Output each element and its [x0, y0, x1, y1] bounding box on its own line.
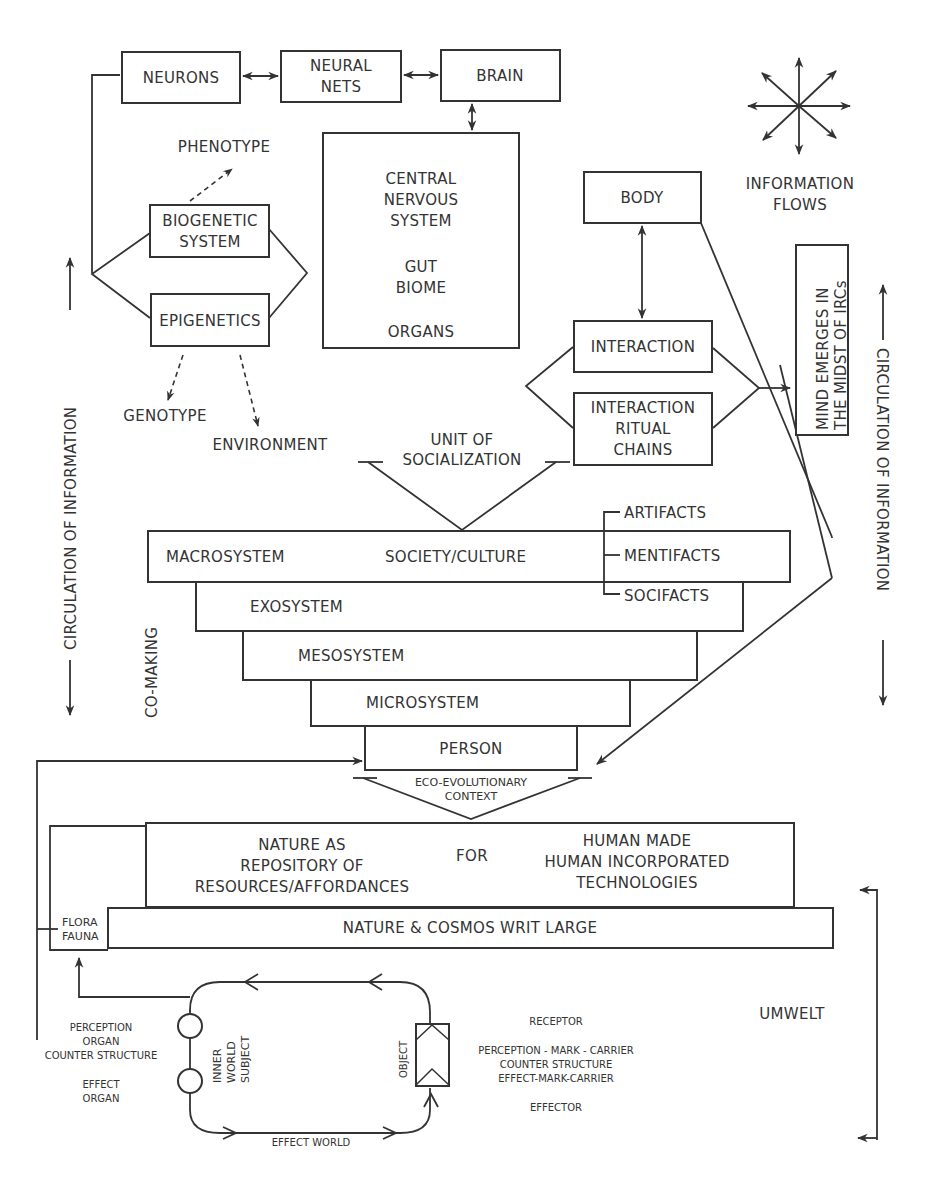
unit-of-socialization-label-1: UNIT OF	[430, 431, 493, 449]
effector-label: EFFECTOR	[530, 1102, 582, 1113]
biogenetic-label-2: SYSTEM	[179, 233, 241, 251]
artifacts-label: ARTIFACTS	[624, 504, 706, 522]
fauna-label: FAUNA	[62, 930, 99, 943]
world-label: WORLD	[225, 1041, 238, 1083]
genetics-left-bracket	[92, 233, 150, 318]
mesosystem-label: MESOSYSTEM	[298, 647, 405, 665]
cns-line-gut: GUT	[405, 258, 438, 276]
effect-world-label: EFFECT WORLD	[272, 1137, 351, 1148]
neurons-box: NEURONS	[122, 52, 240, 103]
interaction-label: INTERACTION	[591, 338, 695, 356]
body-label: BODY	[621, 189, 664, 207]
perception-organ-label-2: ORGAN	[83, 1036, 120, 1047]
phenotype-label: PHENOTYPE	[178, 138, 270, 156]
perception-organ-label-1: PERCEPTION	[70, 1022, 133, 1033]
microsystem-label: MICROSYSTEM	[366, 694, 479, 712]
umwelt-label: UMWELT	[759, 1005, 825, 1023]
flora-label: FLORA	[62, 916, 98, 929]
cns-box: CENTRAL NERVOUS SYSTEM GUT BIOME ORGANS	[323, 133, 519, 348]
macrosystem-label: MACROSYSTEM	[166, 548, 285, 566]
genotype-label: GENOTYPE	[123, 407, 206, 425]
neurons-label: NEURONS	[143, 69, 220, 87]
mentifacts-label: MENTIFACTS	[624, 547, 721, 565]
eco-context-label-1: ECO-EVOLUTIONARY	[415, 776, 527, 789]
mind-emerges-box: MIND EMERGES IN THE MIDST OF IRCs	[796, 245, 850, 435]
effector-chevron	[424, 1094, 438, 1107]
object-box	[416, 1024, 449, 1086]
society-culture-label: SOCIETY/CULTURE	[385, 548, 526, 566]
cns-line-nervous: NERVOUS	[384, 191, 459, 209]
epigenetics-box: EPIGENETICS	[151, 294, 269, 346]
cosmos-label: NATURE & COSMOS WRIT LARGE	[343, 919, 597, 937]
circulation-right-label: CIRCULATION OF INFORMATION	[873, 348, 891, 591]
repository-label-3: RESOURCES/AFFORDANCES	[195, 878, 410, 896]
socifacts-label: SOCIFACTS	[624, 587, 709, 605]
genotype-arrow	[168, 355, 183, 400]
effect-organ-label-2: ORGAN	[83, 1093, 120, 1104]
circulation-left: CIRCULATION OF INFORMATION	[62, 258, 80, 715]
mark-carrier-label-3: EFFECT-MARK-CARRIER	[498, 1073, 613, 1084]
mark-carrier-label-2: COUNTER STRUCTURE	[500, 1059, 613, 1070]
cosmos-box: NATURE & COSMOS WRIT LARGE	[108, 908, 833, 948]
brain-box: BRAIN	[441, 50, 560, 101]
repository-label-1: NATURE AS	[258, 836, 346, 854]
information-flows-star-icon	[748, 58, 850, 154]
cns-line-organs: ORGANS	[388, 323, 455, 341]
information-flows-label-2: FLOWS	[773, 196, 827, 214]
perception-world-loop	[190, 982, 430, 1024]
umwelt-systems-diagram: NEURONS NEURAL NETS BRAIN CENTRAL NERVOU…	[0, 0, 936, 1196]
person-label: PERSON	[439, 740, 502, 758]
interaction-right-bracket	[713, 348, 759, 428]
cns-line-system: SYSTEM	[390, 212, 452, 230]
repository-label-2: REPOSITORY OF	[240, 857, 363, 875]
mind-label-2: THE MIDST OF IRCs	[832, 280, 850, 431]
genetics-right-bracket	[269, 229, 307, 318]
brain-label: BRAIN	[476, 67, 524, 85]
environment-arrow	[240, 355, 258, 426]
to-flora-fauna-arrow	[79, 958, 190, 997]
eco-context-label-2: CONTEXT	[445, 790, 498, 803]
cns-line-biome: BIOME	[396, 279, 446, 297]
for-label: FOR	[456, 847, 488, 865]
biogenetic-box: BIOGENETIC SYSTEM	[150, 205, 269, 257]
neural-nets-label-1: NEURAL	[310, 57, 372, 75]
technologies-label-3: TECHNOLOGIES	[575, 874, 698, 892]
neurons-connector	[92, 75, 120, 273]
object-label: OBJECT	[398, 1040, 409, 1078]
microsystem-box: MICROSYSTEM	[311, 680, 630, 726]
environment-label: ENVIRONMENT	[213, 436, 328, 454]
circulation-left-label: CIRCULATION OF INFORMATION	[62, 407, 80, 650]
biogenetic-label-1: BIOGENETIC	[162, 212, 257, 230]
technologies-label-2: HUMAN INCORPORATED	[544, 853, 729, 871]
mesosystem-box: MESOSYSTEM	[243, 631, 697, 680]
mind-label-1: MIND EMERGES IN	[814, 287, 832, 430]
technologies-label-1: HUMAN MADE	[583, 832, 692, 850]
unit-of-socialization-label-2: SOCIALIZATION	[402, 451, 521, 469]
epigenetics-label: EPIGENETICS	[159, 312, 261, 330]
person-box: PERSON	[365, 726, 577, 770]
irc-label-1: INTERACTION	[591, 399, 695, 417]
interaction-box: INTERACTION	[574, 321, 712, 372]
subject-label: SUBJECT	[239, 1036, 252, 1083]
circulation-right: CIRCULATION OF INFORMATION	[873, 285, 891, 705]
exosystem-label: EXOSYSTEM	[250, 598, 343, 616]
co-making-label: CO-MAKING	[143, 627, 161, 718]
umwelt-bracket-top	[860, 890, 877, 1140]
mark-carrier-label-1: PERCEPTION - MARK - CARRIER	[478, 1045, 633, 1056]
nature-repository-box: NATURE AS REPOSITORY OF RESOURCES/AFFORD…	[146, 823, 794, 907]
perception-organ-label-3: COUNTER STRUCTURE	[45, 1050, 158, 1061]
unit-of-socialization-funnel	[368, 462, 556, 530]
cns-line-central: CENTRAL	[386, 170, 457, 188]
information-flows-label-1: INFORMATION	[746, 175, 854, 193]
neural-nets-box: NEURAL NETS	[281, 51, 401, 102]
irc-label-3: CHAINS	[614, 441, 673, 459]
body-box: BODY	[584, 172, 701, 223]
receptor-label: RECEPTOR	[529, 1016, 583, 1027]
effect-world-loop	[190, 1088, 430, 1133]
interaction-left-bracket	[526, 347, 573, 428]
effect-organ-label-1: EFFECT	[82, 1079, 120, 1090]
irc-label-2: RITUAL	[615, 420, 671, 438]
neural-nets-label-2: NETS	[321, 78, 362, 96]
irc-box: INTERACTION RITUAL CHAINS	[574, 393, 712, 465]
perception-organ-circle	[178, 1014, 202, 1038]
